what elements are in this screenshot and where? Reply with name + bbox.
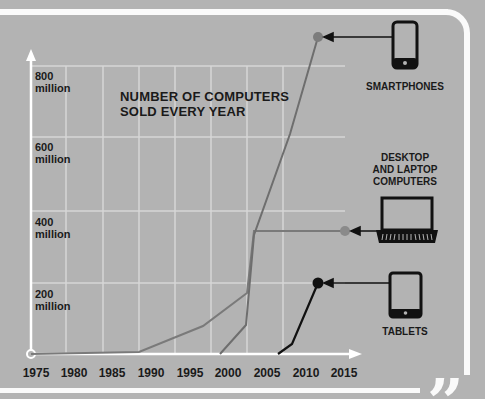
line-chart [0, 0, 485, 399]
x-tick-2005: 2005 [254, 366, 281, 380]
y-tick-unit: million [35, 153, 70, 165]
x-tick-2000: 2000 [215, 366, 242, 380]
y-tick-200: 200 million [35, 288, 70, 312]
y-axis-arrow-icon [26, 49, 36, 61]
x-tick-1990: 1990 [138, 366, 165, 380]
y-tick-value: 600 [35, 141, 70, 153]
y-tick-value: 800 [35, 70, 70, 82]
legend-label-desktop: DESKTOP AND LAPTOP COMPUTERS [365, 152, 445, 188]
x-tick-2015: 2015 [331, 366, 358, 380]
chart-title: NUMBER OF COMPUTERS SOLD EVERY YEAR [120, 89, 289, 119]
series-tablets-end-dot [313, 278, 324, 289]
tablet-icon [390, 273, 421, 317]
y-tick-value: 400 [35, 216, 70, 228]
legend-label-line: AND LAPTOP [365, 164, 445, 176]
y-tick-800: 800 million [35, 70, 70, 94]
series-desktop-end-dot [340, 226, 350, 236]
y-tick-600: 600 million [35, 141, 70, 165]
x-axis-arrow-icon [349, 349, 362, 359]
series-smartphones-line [220, 37, 318, 354]
chart-title-line: NUMBER OF COMPUTERS [120, 89, 289, 104]
legend-label-line: COMPUTERS [365, 176, 445, 188]
smartphone-icon [393, 22, 417, 68]
x-tick-1980: 1980 [61, 366, 88, 380]
chart-title-line: SOLD EVERY YEAR [120, 104, 289, 119]
y-tick-value: 200 [35, 288, 70, 300]
x-tick-1985: 1985 [99, 366, 126, 380]
legend-label-tablets: TABLETS [365, 326, 445, 338]
laptop-icon [376, 198, 438, 243]
series-smartphones-end-dot [313, 32, 323, 42]
y-tick-unit: million [35, 300, 70, 312]
legend-label-line: DESKTOP [365, 152, 445, 164]
x-tick-2010: 2010 [293, 366, 320, 380]
legend-label-smartphones: SMARTPHONES [365, 81, 445, 93]
x-tick-1975: 1975 [23, 366, 50, 380]
y-tick-unit: million [35, 228, 70, 240]
series-tablets-line [278, 283, 318, 354]
series-desktop-line [31, 231, 345, 354]
x-tick-1995: 1995 [177, 366, 204, 380]
y-tick-400: 400 million [35, 216, 70, 240]
y-tick-unit: million [35, 82, 70, 94]
